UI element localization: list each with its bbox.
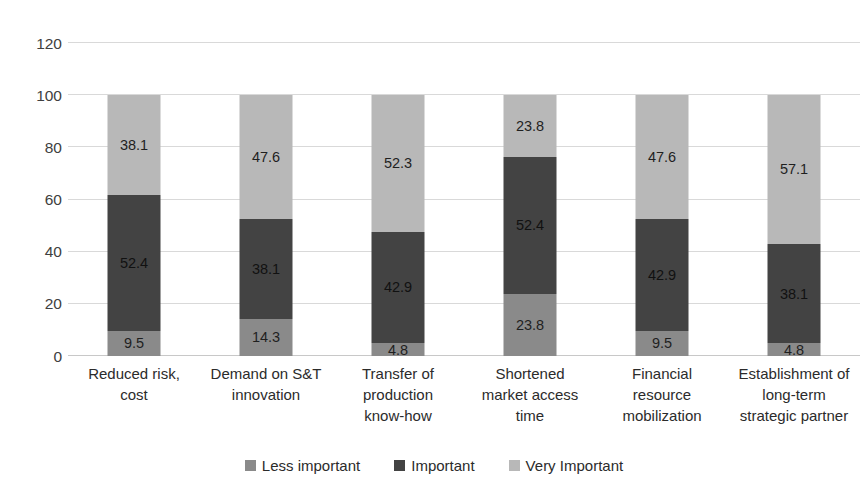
x-axis-label-line: innovation [192,384,340,405]
bar-segment[interactable]: 47.6 [636,95,689,219]
bar-value-label: 38.1 [780,287,808,302]
bar-group[interactable]: 23.852.423.8 [464,43,596,356]
x-axis-label-line: know-how [324,405,472,426]
bar-stack: 23.852.423.8 [504,95,557,356]
legend-swatch-icon [245,460,256,471]
x-axis-label-line: market access [456,384,604,405]
legend-label: Important [411,458,474,473]
bars-layer: 9.552.438.114.338.147.64.842.952.323.852… [68,43,860,356]
x-axis-label-line: mobilization [588,405,736,426]
stacked-bar-chart: 020406080100120 9.552.438.114.338.147.64… [0,0,868,504]
bar-segment[interactable]: 23.8 [504,294,557,356]
y-axis-tick-label: 0 [6,348,62,364]
chart-legend: Less importantImportantVery Important [0,458,868,473]
bar-value-label: 52.4 [516,218,544,233]
bar-value-label: 9.5 [124,336,144,351]
bar-segment[interactable]: 42.9 [372,232,425,344]
bar-group[interactable]: 4.842.952.3 [332,43,464,356]
bar-segment[interactable]: 52.4 [504,157,557,294]
x-axis-label-line: Transfer of [324,363,472,384]
bar-stack: 14.338.147.6 [240,95,293,356]
bar-group[interactable]: 9.542.947.6 [596,43,728,356]
bar-value-label: 42.9 [648,268,676,283]
bar-value-label: 4.8 [784,343,804,358]
bar-segment[interactable]: 38.1 [108,95,161,194]
bar-value-label: 14.3 [252,330,280,345]
bar-stack: 9.552.438.1 [108,95,161,356]
x-axis-label-line: Reduced risk, [60,363,208,384]
x-axis-category-label: Reduced risk,cost [60,363,208,405]
x-axis-label-line: production [324,384,472,405]
x-axis-category-label: Establishment oflong-termstrategic partn… [720,363,868,426]
bar-value-label: 23.8 [516,318,544,333]
bar-segment[interactable]: 9.5 [108,331,161,356]
bar-segment[interactable]: 9.5 [636,331,689,356]
bar-value-label: 9.5 [652,336,672,351]
bar-segment[interactable]: 4.8 [372,343,425,356]
x-axis-category-label: Transfer ofproductionknow-how [324,363,472,426]
bar-value-label: 47.6 [252,150,280,165]
y-axis-tick-label: 60 [6,192,62,208]
bar-segment[interactable]: 52.3 [372,95,425,231]
bar-group[interactable]: 14.338.147.6 [200,43,332,356]
bar-stack: 9.542.947.6 [636,95,689,356]
y-axis-tick-label: 20 [6,296,62,312]
legend-item[interactable]: Important [394,458,474,473]
bar-value-label: 52.3 [384,156,412,171]
x-axis-label-line: Financial [588,363,736,384]
bar-value-label: 38.1 [120,138,148,153]
x-axis-category-label: Financialresourcemobilization [588,363,736,426]
bar-stack: 4.838.157.1 [768,95,821,356]
bar-group[interactable]: 4.838.157.1 [728,43,860,356]
bar-value-label: 47.6 [648,150,676,165]
x-axis-label-line: time [456,405,604,426]
legend-item[interactable]: Less important [245,458,360,473]
bar-value-label: 4.8 [388,343,408,358]
legend-label: Very Important [526,458,624,473]
y-axis: 020406080100120 [0,43,62,356]
legend-swatch-icon [509,460,520,471]
x-axis-category-label: Demand on S&Tinnovation [192,363,340,405]
x-axis-label-line: strategic partner [720,405,868,426]
bar-segment[interactable]: 38.1 [240,219,293,318]
legend-swatch-icon [394,460,405,471]
y-axis-tick-label: 120 [6,35,62,51]
bar-value-label: 42.9 [384,280,412,295]
legend-label: Less important [262,458,360,473]
bar-value-label: 57.1 [780,162,808,177]
x-axis-label-line: Shortened [456,363,604,384]
y-axis-tick-label: 40 [6,244,62,260]
bar-group[interactable]: 9.552.438.1 [68,43,200,356]
x-axis-label-line: Establishment of [720,363,868,384]
bar-segment[interactable]: 57.1 [768,95,821,244]
x-axis-label-line: resource [588,384,736,405]
x-axis-labels: Reduced risk,costDemand on S&Tinnovation… [68,363,860,449]
bar-value-label: 23.8 [516,119,544,134]
bar-segment[interactable]: 4.8 [768,343,821,356]
legend-item[interactable]: Very Important [509,458,624,473]
y-axis-tick-label: 80 [6,140,62,156]
bar-segment[interactable]: 52.4 [108,195,161,332]
bar-segment[interactable]: 47.6 [240,95,293,219]
bar-segment[interactable]: 38.1 [768,244,821,343]
x-axis-category-label: Shortenedmarket accesstime [456,363,604,426]
bar-value-label: 38.1 [252,262,280,277]
x-axis-label-line: Demand on S&T [192,363,340,384]
bar-value-label: 52.4 [120,256,148,271]
x-axis-label-line: cost [60,384,208,405]
bar-segment[interactable]: 14.3 [240,319,293,356]
x-axis-label-line: long-term [720,384,868,405]
y-axis-tick-label: 100 [6,87,62,103]
bar-segment[interactable]: 42.9 [636,219,689,331]
bar-stack: 4.842.952.3 [372,95,425,356]
bar-segment[interactable]: 23.8 [504,95,557,157]
